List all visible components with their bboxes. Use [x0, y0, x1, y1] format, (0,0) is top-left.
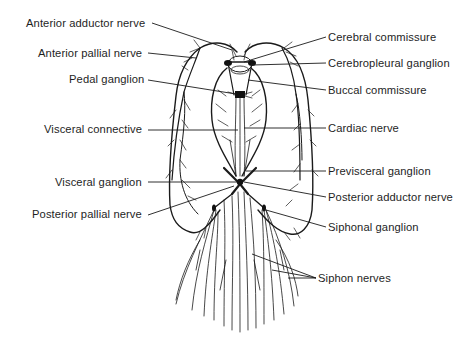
label-cardiac-nerve: Cardiac nerve [328, 122, 399, 135]
visceral-connective-loop [212, 68, 267, 176]
label-previsceral-ganglion: Previsceral ganglion [328, 165, 431, 178]
siphon-nerves-shape [176, 192, 298, 332]
label-buccal-commissure: Buccal commissure [328, 84, 427, 97]
label-siphon-nerves: Siphon nerves [318, 272, 391, 285]
label-cerebral-commissure: Cerebral commissure [328, 31, 436, 44]
label-posterior-pallial-nerve: Posterior pallial nerve [32, 208, 142, 221]
cardiac-nerve-bundle [230, 96, 250, 176]
label-pedal-ganglion: Pedal ganglion [69, 73, 144, 86]
label-anterior-adductor-nerve: Anterior adductor nerve [26, 17, 145, 30]
label-visceral-connective: Visceral connective [44, 123, 142, 136]
label-anterior-pallial-nerve: Anterior pallial nerve [38, 47, 142, 60]
fine-nerve-branches [166, 40, 318, 240]
pedal-ganglion-shape [235, 91, 245, 98]
label-visceral-ganglion: Visceral ganglion [55, 176, 142, 189]
leader-lines-left [148, 23, 238, 215]
cerebral-region [224, 56, 256, 98]
label-posterior-adductor-nerve: Posterior adductor nerve [328, 191, 453, 204]
label-cerebropleural-ganglion: Cerebropleural ganglion [328, 57, 450, 70]
label-siphonal-ganglion: Siphonal ganglion [328, 221, 419, 234]
